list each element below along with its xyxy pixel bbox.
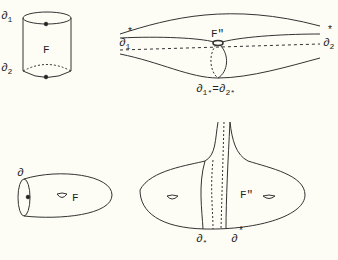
funnel-boundary-star: * — [238, 227, 244, 237]
handle-boundary-label: ∂ — [17, 168, 24, 179]
funnel-boundary-star-label: ∂* — [196, 234, 207, 245]
lens-drawing — [120, 14, 320, 78]
cylinder-surface-label: F — [43, 45, 50, 56]
handle-surface-label: F — [72, 193, 79, 204]
lens-left-star: * — [127, 28, 133, 38]
handle-surface-drawing — [18, 174, 112, 217]
lens-left-boundary-label: ∂1 — [119, 38, 130, 49]
funnel-surface-label: F" — [240, 190, 253, 201]
lens-right-boundary-label: ∂2 — [323, 38, 334, 49]
funnel-surface-drawing — [140, 122, 305, 229]
funnel-boundary-label: ∂ — [231, 234, 238, 245]
cylinder-boundary-2-label: ∂2 — [1, 63, 12, 74]
cylinder-boundary-1-label: ∂1 — [1, 11, 12, 22]
diagram-canvas — [0, 0, 338, 260]
lens-right-star: * — [327, 26, 333, 36]
lens-caption: ∂1*=∂2* — [196, 84, 235, 95]
lens-surface-label: F" — [211, 29, 224, 40]
